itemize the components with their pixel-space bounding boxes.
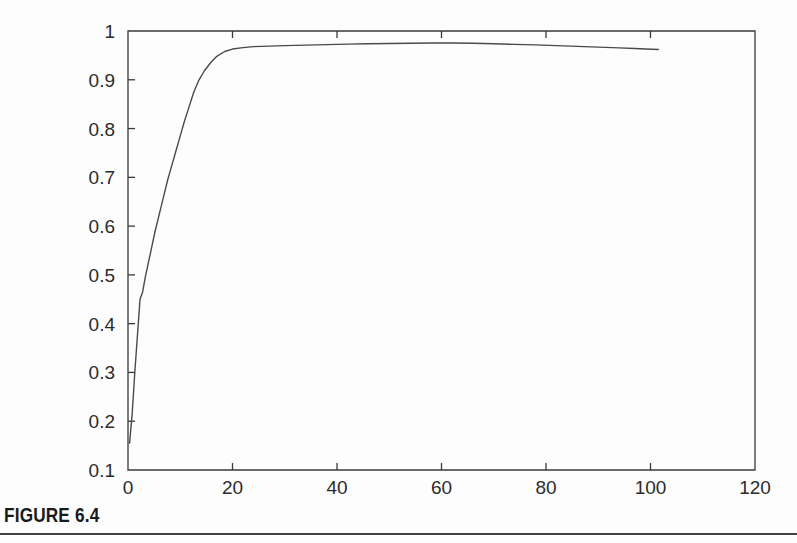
x-tick-label: 120 xyxy=(739,477,771,498)
x-axis-tick-labels: 020406080100120 xyxy=(123,477,771,498)
data-series-line xyxy=(130,43,659,443)
y-tick-label: 0.5 xyxy=(89,265,115,286)
line-chart: 0.10.20.30.40.50.60.70.80.91 02040608010… xyxy=(0,0,797,500)
plot-frame xyxy=(128,31,755,470)
y-tick-label: 0.4 xyxy=(89,314,116,335)
y-tick-label: 0.7 xyxy=(89,167,115,188)
y-tick-label: 0.1 xyxy=(89,460,115,481)
x-tick-label: 0 xyxy=(123,477,134,498)
caption-divider-rule xyxy=(0,533,797,535)
y-axis-tick-labels: 0.10.20.30.40.50.60.70.80.91 xyxy=(89,21,116,481)
y-tick-label: 1 xyxy=(104,21,115,42)
x-tick-label: 80 xyxy=(535,477,556,498)
y-tick-label: 0.9 xyxy=(89,70,115,91)
y-tick-label: 0.3 xyxy=(89,362,115,383)
x-tick-label: 20 xyxy=(222,477,243,498)
figure-caption-label: FIGURE 6.4 xyxy=(4,504,99,527)
x-tick-label: 40 xyxy=(326,477,347,498)
x-tick-label: 100 xyxy=(635,477,667,498)
y-tick-label: 0.6 xyxy=(89,216,115,237)
y-axis-tick-marks xyxy=(128,80,135,421)
figure-page: 0.10.20.30.40.50.60.70.80.91 02040608010… xyxy=(0,0,797,543)
x-axis-tick-marks xyxy=(233,31,651,470)
figure-caption-block: FIGURE 6.4 xyxy=(0,500,797,543)
y-tick-label: 0.8 xyxy=(89,119,115,140)
x-tick-label: 60 xyxy=(431,477,452,498)
chart-figure: 0.10.20.30.40.50.60.70.80.91 02040608010… xyxy=(0,0,797,500)
y-tick-label: 0.2 xyxy=(89,411,115,432)
